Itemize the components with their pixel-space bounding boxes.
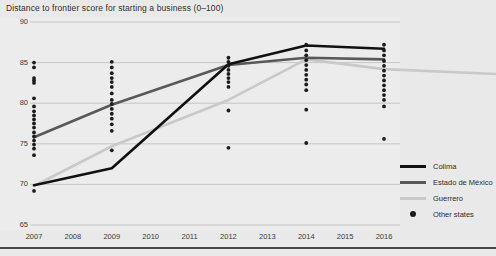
legend-item[interactable]: Estado de México (400, 174, 496, 190)
chart-container: Distance to frontier score for starting … (0, 0, 496, 256)
legend-dot-swatch (400, 211, 426, 217)
y-axis-tick-label: 90 (4, 17, 28, 26)
x-axis-tick-label: 2012 (208, 232, 248, 241)
legend-item[interactable]: Colima (400, 158, 496, 174)
x-axis-tick-label: 2009 (92, 232, 132, 241)
legend-item-label: Colima (433, 162, 456, 171)
legend-item[interactable]: Other states (400, 206, 496, 222)
scatter-points (32, 43, 386, 193)
y-axis-tick-label: 65 (4, 220, 28, 229)
legend-item-label: Guerrero (433, 194, 463, 203)
legend-item-label: Estado de México (433, 178, 493, 187)
x-axis-tick-label: 2015 (325, 232, 365, 241)
legend-item-label: Other states (433, 210, 474, 219)
legend-line-swatch (400, 197, 426, 200)
y-axis-tick-label: 75 (4, 139, 28, 148)
gridlines (30, 22, 400, 225)
legend-item[interactable]: Guerrero (400, 190, 496, 206)
x-axis-tick-label: 2010 (131, 232, 171, 241)
y-axis-tick-label: 70 (4, 179, 28, 188)
x-axis-tick-label: 2016 (364, 232, 404, 241)
x-axis-tick-label: 2011 (170, 232, 210, 241)
x-axis-tick-label: 2008 (53, 232, 93, 241)
chart-legend: ColimaEstado de MéxicoGuerreroOther stat… (400, 158, 496, 222)
legend-line-swatch (400, 165, 426, 168)
y-axis-tick-label: 80 (4, 98, 28, 107)
legend-line-swatch (400, 181, 426, 184)
x-axis-tick-label: 2013 (247, 232, 287, 241)
x-axis-tick-label: 2007 (14, 232, 54, 241)
scatter-dot-icon (410, 211, 416, 217)
bottom-divider (0, 247, 496, 249)
x-axis-tick-label: 2014 (286, 232, 326, 241)
y-axis-tick-label: 85 (4, 58, 28, 67)
